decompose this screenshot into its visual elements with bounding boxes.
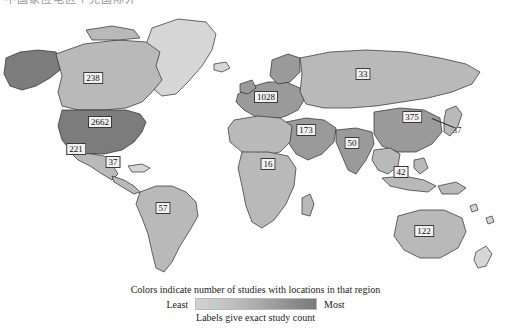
region-value-label: 57	[156, 202, 171, 214]
world-study-count-map-figure: 中国家应电区个克国际外 .land { stroke:#2b2b2b; stro…	[0, 0, 511, 335]
region-value-label: 1028	[254, 91, 278, 103]
region-value-label: 375	[402, 111, 422, 123]
map-legend: Colors indicate number of studies with l…	[0, 282, 511, 335]
region-value-label: 221	[66, 143, 86, 155]
region-value-label: 50	[345, 137, 360, 149]
legend-subtitle: Labels give exact study count	[0, 312, 511, 323]
region-value-label: 238	[83, 72, 103, 84]
region-value-label: 33	[356, 68, 371, 80]
legend-color-gradient	[195, 298, 317, 310]
region-value-label: 2662	[88, 116, 112, 128]
region-value-label: 122	[414, 225, 434, 237]
top-caption-text: 中国家应电区个克国际外	[5, 0, 137, 6]
region-value-label: 37	[106, 156, 121, 168]
region-value-label: 16	[261, 158, 276, 170]
legend-least-label: Least	[166, 299, 188, 310]
legend-title: Colors indicate number of studies with l…	[0, 283, 511, 296]
legend-scale-row: Least Most	[0, 298, 511, 310]
region-value-label: 173	[296, 124, 316, 136]
region-value-label: 42	[394, 166, 409, 178]
legend-most-label: Most	[324, 299, 345, 310]
map-area: .land { stroke:#2b2b2b; stroke-width:0.7…	[0, 10, 511, 282]
